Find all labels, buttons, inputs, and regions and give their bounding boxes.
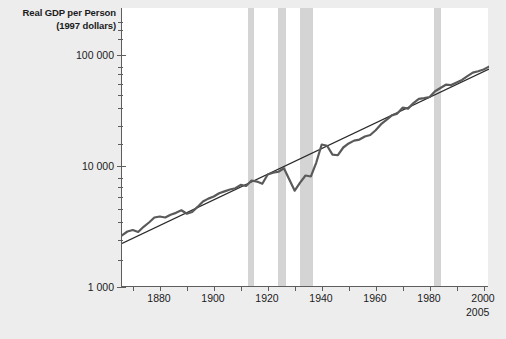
x-axis-end-label: 2005 (466, 306, 489, 318)
x-axis-label-1900: 1900 (183, 292, 243, 304)
x-axis-label-1980: 1980 (399, 292, 459, 304)
chart-title: Real GDP per Person (1997 dollars) (8, 6, 116, 32)
chart-title-line2: (1997 dollars) (8, 19, 116, 32)
x-axis-label-1940: 1940 (291, 292, 351, 304)
gdp-series-path (122, 67, 489, 236)
y-axis-label-1000: 1 000 (36, 281, 114, 293)
y-axis-label-100000: 100 000 (36, 49, 114, 61)
gdp-per-person-chart: Real GDP per Person (1997 dollars) 100 0… (0, 0, 506, 339)
x-axis-label-2000: 2000 (453, 292, 506, 304)
y-tick-1000 (117, 287, 126, 288)
chart-title-line1: Real GDP per Person (8, 6, 116, 19)
x-axis-label-1880: 1880 (129, 292, 189, 304)
y-axis-label-10000: 10 000 (36, 160, 114, 172)
x-axis-label-1960: 1960 (345, 292, 405, 304)
x-axis-label-1920: 1920 (237, 292, 297, 304)
series-svg (122, 8, 489, 287)
trend-line-path (122, 69, 489, 243)
plot-area (121, 8, 488, 287)
